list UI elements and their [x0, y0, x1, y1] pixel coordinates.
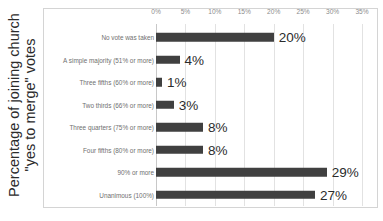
bar-row: Two thirds (66% or more)3%: [0, 94, 383, 117]
x-axis-tick-label: 30%: [326, 8, 339, 15]
x-axis-tick-label: 15%: [238, 8, 251, 15]
category-label: Unanimous (100%): [99, 191, 154, 198]
bar-row: A simple majority (51% or more)4%: [0, 49, 383, 72]
bar-value-label: 3%: [179, 97, 199, 112]
category-label: Four fifths (80% or more): [83, 146, 154, 153]
bar: [156, 78, 162, 87]
bar-rows: No vote was taken20%A simple majority (5…: [0, 26, 383, 206]
bar-value-label: 1%: [167, 75, 187, 90]
bar-row: Three fifths (60% or more)1%: [0, 71, 383, 94]
bar: [156, 191, 315, 200]
category-label: Three quarters (75% or more): [69, 124, 154, 131]
bar-row: No vote was taken20%: [0, 26, 383, 49]
bar-value-label: 20%: [279, 30, 306, 45]
bar-row: Four fifths (80% or more)8%: [0, 139, 383, 162]
x-axis-tick-label: 35%: [355, 8, 368, 15]
bar-value-label: 4%: [185, 52, 205, 67]
bar-value-label: 29%: [332, 165, 359, 180]
bar-value-label: 8%: [208, 142, 228, 157]
x-axis-tick-label: 0%: [151, 8, 161, 15]
bar-row: 90% or more29%: [0, 161, 383, 184]
bar: [156, 33, 274, 42]
x-axis-tick-label: 5%: [181, 8, 191, 15]
bar: [156, 168, 327, 177]
bar: [156, 123, 203, 132]
bar-row: Unanimous (100%)27%: [0, 184, 383, 207]
category-label: 90% or more: [117, 169, 154, 176]
bar-row: Three quarters (75% or more)8%: [0, 116, 383, 139]
bar-chart: Percentage of joining church "yes to mer…: [0, 0, 383, 221]
x-axis-tick-label: 25%: [297, 8, 310, 15]
bar: [156, 101, 174, 110]
category-label: No vote was taken: [101, 34, 154, 41]
x-axis-tick-label: 20%: [267, 8, 280, 15]
bar-value-label: 8%: [208, 120, 228, 135]
category-label: Three fifths (60% or more): [79, 79, 154, 86]
bar: [156, 146, 203, 155]
x-axis-tick-labels: 0%5%10%15%20%25%30%35%: [0, 8, 383, 22]
bar-value-label: 27%: [320, 187, 347, 202]
bar: [156, 56, 180, 65]
x-axis-tick-label: 10%: [208, 8, 221, 15]
category-label: Two thirds (66% or more): [82, 101, 154, 108]
category-label: A simple majority (51% or more): [63, 56, 154, 63]
